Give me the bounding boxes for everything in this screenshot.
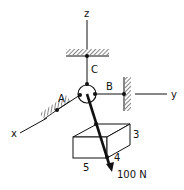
wall-hatch bbox=[125, 77, 131, 111]
label-b: B bbox=[106, 81, 113, 92]
z-axis-label: z bbox=[84, 8, 89, 19]
x-axis: x bbox=[11, 118, 47, 139]
dim-width-label: 5 bbox=[83, 162, 89, 173]
support-c: C bbox=[66, 49, 109, 84]
z-axis: z bbox=[84, 8, 89, 49]
force-point-top bbox=[94, 122, 98, 126]
ring-joint-top bbox=[85, 82, 89, 86]
dim-height-label: 3 bbox=[133, 129, 139, 140]
y-axis-label: y bbox=[171, 89, 177, 100]
arrowhead-icon bbox=[106, 162, 114, 172]
angled-wall-hatch bbox=[40, 95, 70, 118]
label-c: C bbox=[91, 64, 98, 75]
support-b: B bbox=[95, 77, 131, 111]
x-axis-label: x bbox=[11, 128, 17, 139]
support-a: A bbox=[40, 93, 80, 119]
label-a: A bbox=[58, 93, 65, 104]
y-axis: y bbox=[135, 89, 177, 100]
force-label: 100 N bbox=[117, 169, 147, 180]
force-point-bottom bbox=[105, 155, 109, 159]
dim-depth-label: 4 bbox=[114, 152, 120, 163]
statics-diagram: z C B y A x bbox=[0, 0, 184, 190]
